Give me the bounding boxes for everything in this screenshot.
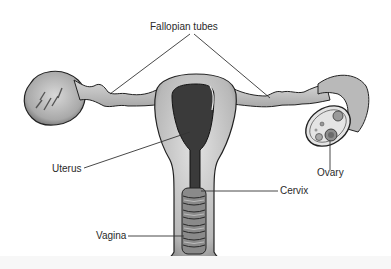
- anatomy-illustration: [0, 0, 391, 269]
- label-vagina: Vagina: [96, 230, 126, 242]
- right-fallopian-tube: [232, 84, 330, 107]
- left-ovary-shape: [24, 71, 85, 125]
- bottom-margin: [0, 256, 391, 269]
- label-ovary: Ovary: [317, 167, 344, 179]
- label-uterus: Uterus: [52, 163, 81, 175]
- left-fallopian-tube: [74, 80, 162, 107]
- vaginal-canal: [182, 188, 206, 254]
- reproductive-system-diagram: Fallopian tubes Uterus Ovary Cervix Vagi…: [0, 0, 391, 269]
- label-cervix: Cervix: [280, 185, 308, 197]
- label-fallopian-tubes: Fallopian tubes: [150, 21, 218, 33]
